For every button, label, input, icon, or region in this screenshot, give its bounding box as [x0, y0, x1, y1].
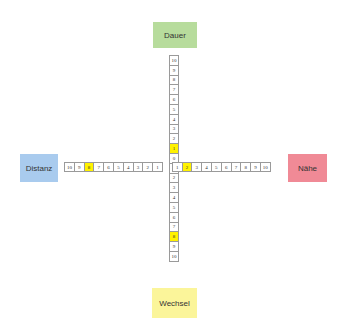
scale-cell: 1	[152, 162, 163, 172]
pole-dauer: Dauer	[153, 22, 197, 48]
scale-cell: 10	[169, 251, 179, 262]
pole-naehe: Nähe	[288, 154, 327, 182]
horizontal-scale: 10987654321012345678910	[64, 162, 271, 172]
pole-wechsel: Wechsel	[152, 288, 197, 318]
vertical-scale: 10987654321012345678910	[169, 55, 179, 262]
pole-distanz: Distanz	[20, 154, 58, 182]
scale-cell: 10	[260, 162, 271, 172]
